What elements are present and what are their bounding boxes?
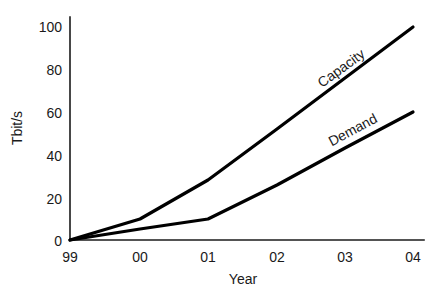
- x-axis-ticks: 99 00 01 02 03 04: [62, 249, 421, 265]
- x-axis-title: Year: [229, 271, 258, 287]
- y-tick-label-40: 40: [46, 148, 62, 164]
- y-axis-ticks: 100 80 60 40 20 0: [39, 19, 63, 249]
- y-tick-label-60: 60: [46, 105, 62, 121]
- chart-canvas: 100 80 60 40 20 0 99 00 01 02 03 04 Tbit…: [0, 0, 438, 291]
- y-tick-label-80: 80: [46, 62, 62, 78]
- x-tick-label-04: 04: [405, 249, 421, 265]
- x-tick-label-99: 99: [62, 249, 78, 265]
- line-chart: 100 80 60 40 20 0 99 00 01 02 03 04 Tbit…: [0, 0, 438, 291]
- x-tick-label-00: 00: [132, 249, 148, 265]
- x-tick-label-02: 02: [269, 249, 285, 265]
- y-axis-title: Tbit/s: [9, 111, 25, 145]
- x-tick-label-01: 01: [200, 249, 216, 265]
- y-tick-label-20: 20: [46, 191, 62, 207]
- y-tick-label-0: 0: [54, 233, 62, 249]
- y-tick-label-100: 100: [39, 19, 63, 35]
- x-tick-label-03: 03: [337, 249, 353, 265]
